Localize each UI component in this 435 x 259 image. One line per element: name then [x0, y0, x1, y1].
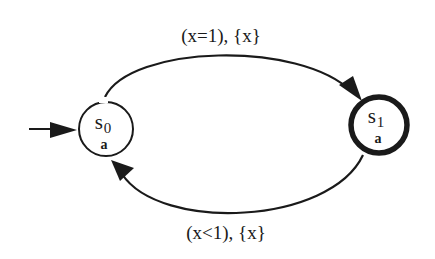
edge-s1-s0-arrowhead-icon [111, 160, 134, 181]
state-s0[interactable]: s0 a [79, 97, 133, 156]
edge-label-s1-s0: (x<1), {x} [186, 222, 266, 244]
initial-arrowhead-icon [50, 122, 77, 138]
state-s1[interactable]: s1 a [351, 97, 407, 153]
state-s1-proposition: a [375, 131, 382, 146]
initial-arrow [29, 122, 77, 138]
edge-label-s0-s1: (x=1), {x} [181, 25, 261, 47]
automaton-diagram: (x=1), {x} (x<1), {x} s0 a s1 a [0, 0, 435, 259]
edge-s0-s1-arrowhead-icon [339, 76, 362, 101]
state-s0-proposition: a [101, 137, 108, 152]
edge-s1-to-s0: (x<1), {x} [111, 155, 363, 244]
edge-s0-to-s1: (x=1), {x} [105, 25, 362, 101]
